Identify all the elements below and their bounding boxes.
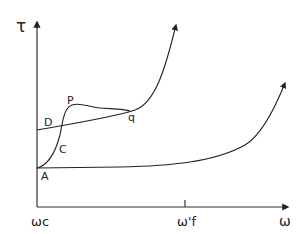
- y-axis-label: τ: [16, 16, 26, 36]
- diagram-canvas: τ ω ωc ω'f D P q C A: [0, 0, 303, 234]
- point-label-c: C: [59, 143, 67, 156]
- point-label-p: P: [67, 94, 74, 107]
- point-label-a: A: [41, 170, 49, 183]
- lower-curve: [37, 83, 285, 168]
- point-label-d: D: [44, 116, 52, 129]
- x-tick-label-omega-f: ω'f: [177, 214, 196, 229]
- x-tick-label-omega-c: ωc: [31, 214, 49, 229]
- x-axis-label: ω: [279, 213, 291, 229]
- upper-curve: [37, 25, 176, 130]
- point-label-q: q: [128, 111, 135, 124]
- transition-curve: [37, 104, 130, 168]
